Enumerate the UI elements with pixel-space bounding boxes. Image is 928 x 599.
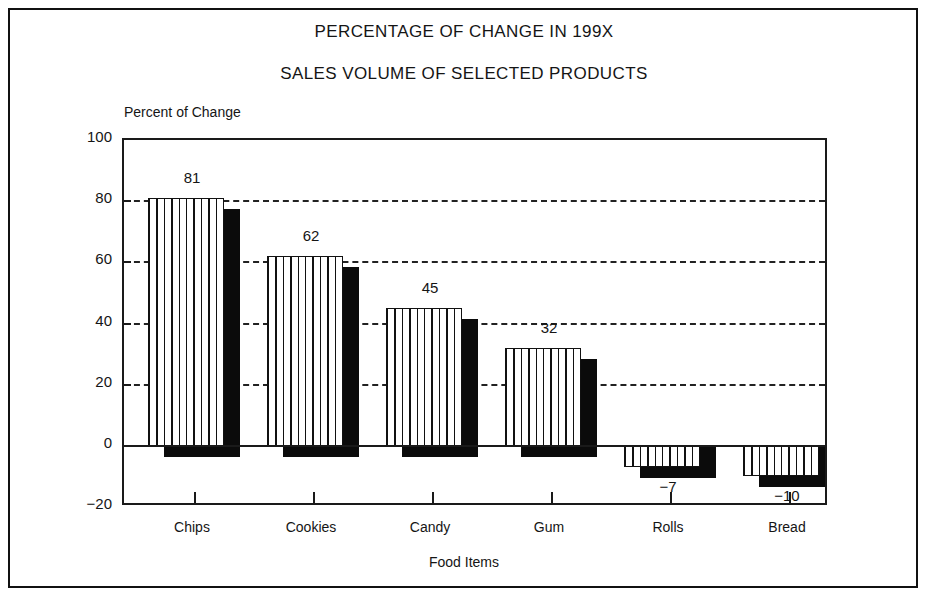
- chart-title: PERCENTAGE OF CHANGE IN 199X: [0, 22, 928, 42]
- x-axis-tick: [313, 492, 315, 503]
- bar-chips: [148, 198, 224, 446]
- y-axis-tick: [124, 445, 131, 447]
- bar-rolls: [624, 446, 700, 467]
- x-axis-tick: [551, 492, 553, 503]
- y-axis-label: −20: [52, 495, 112, 512]
- x-axis-tick: [432, 492, 434, 503]
- bar-value-label: 32: [489, 319, 609, 336]
- bar-gum: [505, 348, 581, 446]
- x-axis-label-bread: Bread: [727, 519, 847, 535]
- x-axis-label-gum: Gum: [489, 519, 609, 535]
- y-axis-label: 80: [52, 189, 112, 206]
- x-axis-caption: Food Items: [0, 554, 928, 570]
- bar-value-label: 45: [370, 279, 490, 296]
- x-axis-label-chips: Chips: [132, 519, 252, 535]
- bar-bread: [743, 446, 819, 477]
- plot-area: [122, 138, 827, 505]
- y-axis-tick: [124, 261, 131, 263]
- bar-cookies: [267, 256, 343, 446]
- chart-figure: PERCENTAGE OF CHANGE IN 199X SALES VOLUM…: [0, 0, 928, 599]
- y-axis-tick: [124, 384, 131, 386]
- bar-value-label: 62: [251, 227, 371, 244]
- bar-value-label: −10: [727, 487, 847, 504]
- y-axis-label: 40: [52, 312, 112, 329]
- gridline: [124, 200, 825, 202]
- y-axis-label: 100: [52, 128, 112, 145]
- y-axis-label: 0: [52, 434, 112, 451]
- bar-value-label: 81: [132, 169, 252, 186]
- bar-candy: [386, 308, 462, 446]
- y-axis-tick: [124, 323, 131, 325]
- x-axis-label-rolls: Rolls: [608, 519, 728, 535]
- y-axis-label: 60: [52, 250, 112, 267]
- x-axis-tick: [194, 492, 196, 503]
- x-axis-label-cookies: Cookies: [251, 519, 371, 535]
- x-axis-label-candy: Candy: [370, 519, 490, 535]
- y-axis-label: 20: [52, 373, 112, 390]
- zero-axis-line: [124, 445, 825, 447]
- y-axis-caption: Percent of Change: [124, 104, 241, 120]
- y-axis-tick: [124, 200, 131, 202]
- chart-subtitle: SALES VOLUME OF SELECTED PRODUCTS: [0, 64, 928, 84]
- bar-value-label: −7: [608, 478, 728, 495]
